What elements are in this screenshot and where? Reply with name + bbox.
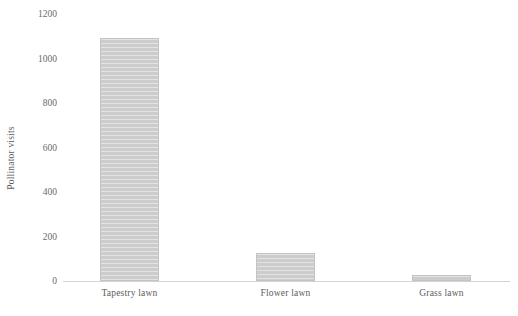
x-tick-label-tapestry-lawn: Tapestry lawn [101, 288, 157, 298]
x-axis-tick-labels: Tapestry lawn Flower lawn Grass lawn [63, 288, 508, 306]
bar-flower-lawn [256, 253, 315, 281]
bar-tapestry-lawn [100, 38, 159, 281]
y-tick-label-200: 200 [43, 232, 57, 242]
plot-area [63, 14, 508, 281]
y-axis-title-text: Pollinator visits [6, 126, 16, 189]
y-tick-label-600: 600 [43, 143, 57, 153]
x-tick-label-grass-lawn: Grass lawn [419, 288, 463, 298]
chart-figure: Pollinator visits 0 200 400 600 800 1000… [0, 0, 518, 316]
x-tick-label-flower-lawn: Flower lawn [261, 288, 311, 298]
y-axis-title: Pollinator visits [0, 0, 22, 316]
y-axis-tick-labels: 0 200 400 600 800 1000 1200 [24, 14, 57, 281]
y-tick-label-800: 800 [43, 98, 57, 108]
y-tick-label-1000: 1000 [38, 54, 57, 64]
x-axis-line [63, 281, 510, 282]
y-tick-label-1200: 1200 [38, 9, 57, 19]
y-tick-label-0: 0 [52, 276, 57, 286]
y-tick-label-400: 400 [43, 187, 57, 197]
